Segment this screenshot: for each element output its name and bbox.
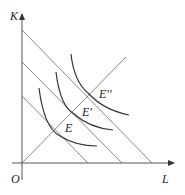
point-e-prime-label: E'	[81, 105, 92, 119]
diagram-canvas: K L O E E' E''	[0, 0, 185, 195]
point-e-label: E	[64, 121, 73, 135]
expansion-path-line	[22, 57, 126, 163]
isoquant-isocost-diagram: K L O E E' E''	[0, 0, 185, 195]
l-axis-label: L	[161, 172, 169, 186]
point-e-double-prime-label: E''	[98, 87, 112, 101]
origin-label: O	[11, 172, 20, 186]
k-axis-label: K	[9, 9, 19, 23]
